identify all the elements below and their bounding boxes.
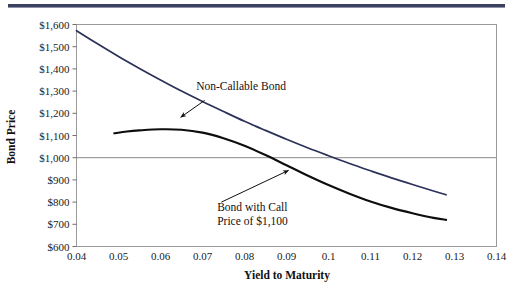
y-axis-title: Bond Price xyxy=(5,110,17,165)
x-tick-label: 0.07 xyxy=(193,250,213,262)
y-tick-label: $700 xyxy=(48,218,71,230)
y-tick-label: $800 xyxy=(48,196,71,208)
x-tick-label: 0.04 xyxy=(67,250,87,262)
annotation-line: Bond with Call xyxy=(217,201,287,213)
x-tick-label: 0.11 xyxy=(361,250,380,262)
x-tick-label: 0.13 xyxy=(445,250,465,262)
y-tick-label: $1,600 xyxy=(39,19,70,31)
bond-price-yield-chart-figure: $600$700$800$900$1,000$1,100$1,200$1,300… xyxy=(0,0,519,296)
y-tick-label: $1,300 xyxy=(39,85,70,97)
non-callable-annotation-label: Non-Callable Bond xyxy=(196,80,286,92)
callable-annotation-label: Bond with CallPrice of $1,100 xyxy=(217,201,288,228)
annotation-line: Non-Callable Bond xyxy=(196,80,286,92)
x-tick-label: 0.12 xyxy=(403,250,422,262)
annotation-line: Price of $1,100 xyxy=(217,215,288,228)
y-tick-label: $1,400 xyxy=(39,63,70,75)
y-tick-label: $1,200 xyxy=(39,107,70,119)
y-axis-tick-labels: $600$700$800$900$1,000$1,100$1,200$1,300… xyxy=(39,19,70,253)
x-tick-label: 0.14 xyxy=(487,250,507,262)
chart-canvas: $600$700$800$900$1,000$1,100$1,200$1,300… xyxy=(0,0,519,296)
y-tick-label: $1,100 xyxy=(39,130,70,142)
y-axis-tick-marks xyxy=(73,25,77,247)
x-axis-tick-labels: 0.040.050.060.070.080.090.10.110.120.130… xyxy=(67,250,507,262)
x-axis-title: Yield to Maturity xyxy=(244,269,330,282)
x-tick-label: 0.06 xyxy=(151,250,171,262)
x-tick-label: 0.08 xyxy=(235,250,255,262)
y-tick-label: $1,500 xyxy=(39,41,70,53)
x-tick-label: 0.05 xyxy=(109,250,129,262)
x-tick-label: 0.1 xyxy=(322,250,336,262)
x-tick-label: 0.09 xyxy=(277,250,297,262)
y-tick-label: $1,000 xyxy=(39,152,70,164)
plot-area-frame xyxy=(77,25,497,247)
y-tick-label: $900 xyxy=(48,174,71,186)
